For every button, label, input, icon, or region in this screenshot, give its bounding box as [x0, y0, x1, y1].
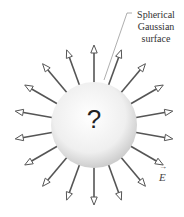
field-arrow-shaft [108, 163, 119, 194]
unknown-charge-symbol: ? [80, 104, 108, 135]
field-arrow-shaft [69, 56, 80, 87]
leader-line [104, 13, 127, 80]
arrowhead-icon [164, 109, 172, 115]
arrowhead-icon [15, 134, 23, 140]
field-arrow-shaft [129, 89, 158, 106]
surface-label-line: surface [128, 33, 184, 45]
surface-label: Spherical Gaussian surface [128, 9, 184, 45]
field-arrow-shaft [22, 132, 54, 138]
field-arrow-shaft [69, 163, 80, 194]
arrowhead-icon [66, 192, 72, 201]
surface-label-line: Gaussian [128, 21, 184, 33]
surface-label-line: Spherical [128, 9, 184, 21]
field-arrow-shaft [47, 69, 68, 94]
arrowhead-icon [15, 109, 23, 115]
gauss-diagram: Spherical Gaussian surface ? → E [0, 0, 184, 217]
arrowhead-icon [116, 192, 122, 201]
arrowhead-icon [25, 158, 34, 165]
field-arrow-shaft [120, 156, 141, 181]
arrowhead-icon [91, 197, 97, 205]
field-arrow-shaft [47, 156, 68, 181]
arrowhead-icon [155, 85, 164, 92]
field-arrow-shaft [22, 112, 54, 118]
arrowhead-icon [25, 85, 34, 92]
arrowhead-icon [164, 134, 172, 140]
field-arrow-shaft [133, 112, 165, 118]
arrowhead-icon [66, 50, 72, 59]
vector-arrow-icon: → [159, 162, 167, 171]
field-arrow-shaft [108, 56, 119, 87]
arrowhead-icon [91, 45, 97, 53]
field-arrow-shaft [31, 145, 60, 162]
electric-field-label: → E [159, 171, 166, 183]
field-arrow-shaft [120, 69, 141, 94]
field-arrow-shaft [31, 89, 60, 106]
arrowhead-icon [116, 50, 122, 59]
field-symbol: E [159, 171, 166, 183]
field-arrow-shaft [129, 145, 158, 162]
field-arrow-shaft [133, 132, 165, 138]
